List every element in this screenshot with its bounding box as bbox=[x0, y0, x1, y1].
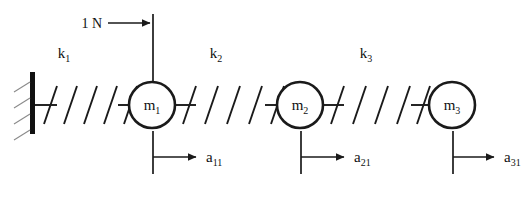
fixed-support bbox=[14, 72, 35, 140]
mass-m3: m3 bbox=[429, 82, 475, 128]
spring-k2-label: k2 bbox=[210, 45, 223, 64]
force-label: 1 N bbox=[81, 16, 102, 31]
acceleration-a21-indicator: a21 bbox=[301, 131, 371, 174]
diagram-canvas: m1 m2 m3 k1 k2 k3 1 N a11 bbox=[0, 0, 529, 200]
acceleration-a31-indicator: a31 bbox=[453, 131, 521, 174]
spring-k1-label: k1 bbox=[58, 45, 71, 64]
spring-k2 bbox=[175, 86, 284, 124]
a21-label: a21 bbox=[354, 149, 371, 168]
wall-hatching bbox=[14, 82, 30, 140]
acceleration-a11-indicator: a11 bbox=[153, 131, 222, 174]
a11-label: a11 bbox=[206, 149, 222, 168]
spring-k1 bbox=[35, 86, 137, 124]
mass-m1: m1 bbox=[129, 82, 175, 128]
applied-force-indicator: 1 N bbox=[81, 14, 153, 82]
a31-label: a31 bbox=[504, 149, 521, 168]
spring-k3 bbox=[323, 86, 430, 124]
spring-k3-label: k3 bbox=[360, 45, 373, 64]
mass-m2: m2 bbox=[277, 82, 323, 128]
spring-mass-diagram: m1 m2 m3 k1 k2 k3 1 N a11 bbox=[0, 0, 529, 200]
wall-bar bbox=[30, 72, 35, 134]
